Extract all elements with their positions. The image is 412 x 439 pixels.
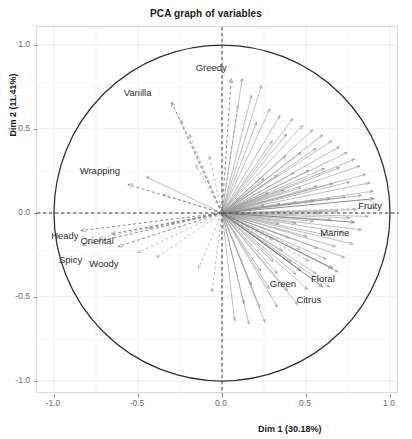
- y-tick-label: 1.0: [0, 39, 30, 49]
- x-axis-label: Dim 1 (30.18%): [258, 424, 408, 434]
- variable-label-marine: Marine: [320, 227, 349, 238]
- variable-label-wrapping: Wrapping: [80, 165, 121, 176]
- variable-label-spicy: Spicy: [59, 253, 82, 264]
- variable-label-citrus: Citrus: [296, 293, 321, 304]
- y-tick-label: -1.0: [0, 375, 30, 385]
- x-tick-label: 0.5: [285, 398, 325, 408]
- y-tick-mark: [34, 381, 37, 382]
- variable-label-oriental: Oriental: [80, 235, 113, 246]
- variable-label-fruity: Fruity: [358, 199, 382, 210]
- x-tick-mark: [390, 394, 391, 397]
- y-tick-mark: [34, 297, 37, 298]
- grid-lines: [37, 27, 399, 394]
- x-tick-label: -0.5: [117, 398, 157, 408]
- variable-vectors: [81, 79, 375, 324]
- variable-label-woody: Woody: [89, 257, 118, 268]
- variable-label-heady: Heady: [51, 229, 78, 240]
- x-tick-mark: [306, 394, 307, 397]
- x-tick-mark: [222, 394, 223, 397]
- y-tick-mark: [34, 213, 37, 214]
- y-tick-label: -0.5: [0, 291, 30, 301]
- y-tick-mark: [34, 129, 37, 130]
- y-tick-label: 0.5: [0, 123, 30, 133]
- x-tick-label: 1.0: [369, 398, 409, 408]
- x-tick-label: -1.0: [33, 398, 73, 408]
- pca-plot-figure: { "chart_data": { "type": "scatter", "su…: [0, 0, 412, 439]
- x-tick-mark: [138, 394, 139, 397]
- y-tick-label: 0.0: [0, 207, 30, 217]
- x-tick-mark: [54, 394, 55, 397]
- plot-canvas: [37, 27, 399, 394]
- plot-panel: GreedyVanillaWrappingHeadyOrientalSpicyW…: [36, 26, 398, 393]
- page-title: PCA graph of variables: [0, 8, 412, 19]
- variable-label-greedy: Greedy: [196, 61, 227, 72]
- y-tick-mark: [34, 45, 37, 46]
- variable-label-green: Green: [270, 277, 296, 288]
- x-tick-label: 0.0: [201, 398, 241, 408]
- variable-label-floral: Floral: [311, 273, 335, 284]
- variable-label-vanilla: Vanilla: [124, 87, 152, 98]
